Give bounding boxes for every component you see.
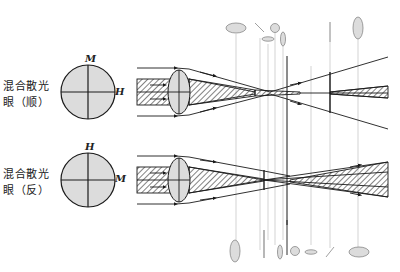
- top-ellipse-vertical: [281, 32, 286, 46]
- row2-ray-diagram: [137, 156, 388, 204]
- row1-eye-circle: [61, 65, 115, 119]
- row1-ray-diagram: [137, 57, 388, 129]
- guide-lines: [236, 22, 358, 250]
- bottom-ellipse-vertical: [278, 245, 283, 259]
- top-circle: [271, 24, 280, 33]
- bottom-ellipse-wide: [349, 247, 369, 257]
- bottom-circle: [291, 247, 300, 256]
- bottom-ellipse-flat: [305, 250, 317, 254]
- top-ellipse-flat: [262, 37, 274, 41]
- row2-eye-circle: [61, 153, 115, 207]
- top-ellipse-tall: [353, 17, 363, 39]
- mixed-astigmatism-diagram: 混合散光 眼（顺） M H 混合散光 眼（反） H M: [0, 0, 400, 272]
- top-shapes: [226, 17, 363, 46]
- top-ellipse-1: [226, 23, 246, 33]
- bottom-shapes: [230, 240, 369, 262]
- bottom-ellipse-tall: [230, 240, 240, 262]
- diagram-graphics: [0, 0, 400, 272]
